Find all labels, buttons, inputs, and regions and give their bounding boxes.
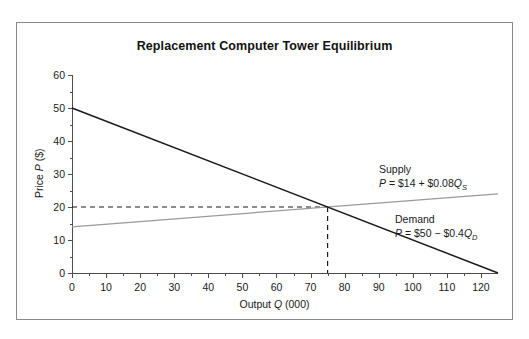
x-tick-70 <box>311 274 312 278</box>
x-axis-title-post: (000) <box>282 298 309 310</box>
x-tick-minor <box>157 274 158 276</box>
x-tick-60 <box>276 274 277 278</box>
supply-eq-body: = $14 + $0.08 <box>386 177 454 189</box>
x-tick-minor <box>191 274 192 276</box>
x-axis-line <box>72 273 498 274</box>
demand-eq-subscript: D <box>472 233 477 242</box>
x-tick-minor <box>328 274 329 276</box>
chart-figure-border: Replacement Computer Tower Equilibrium P… <box>16 22 513 320</box>
x-tick-label-40: 40 <box>202 281 214 293</box>
y-tick-label-0: 0 <box>59 267 65 279</box>
demand-annotation-equation: P = $50 − $0.4QD <box>395 227 478 245</box>
x-tick-label-70: 70 <box>305 281 317 293</box>
y-tick-label-10: 10 <box>53 234 65 246</box>
x-tick-minor <box>294 274 295 276</box>
x-tick-label-50: 50 <box>237 281 249 293</box>
demand-annotation: Demand P = $50 − $0.4QD <box>395 213 478 244</box>
x-tick-minor <box>225 274 226 276</box>
x-tick-20 <box>140 274 141 278</box>
x-tick-90 <box>379 274 380 278</box>
x-tick-minor <box>430 274 431 276</box>
supply-eq-quantity-var: Q <box>454 177 462 189</box>
supply-annotation: Supply P = $14 + $0.08QS <box>379 163 467 194</box>
x-tick-0 <box>72 274 73 278</box>
x-axis-title-pre: Output <box>239 298 273 310</box>
demand-annotation-label: Demand <box>395 213 435 225</box>
x-tick-40 <box>208 274 209 278</box>
y-axis-title: Price P ($) <box>33 148 45 198</box>
y-tick-label-50: 50 <box>53 102 65 114</box>
x-tick-label-60: 60 <box>271 281 283 293</box>
x-tick-label-30: 30 <box>168 281 180 293</box>
demand-eq-quantity-var: Q <box>464 227 472 239</box>
x-tick-50 <box>242 274 243 278</box>
x-tick-minor <box>396 274 397 276</box>
y-axis-title-pre: Price <box>33 171 45 198</box>
supply-annotation-label: Supply <box>379 163 411 175</box>
y-tick-label-20: 20 <box>53 201 65 213</box>
x-tick-label-90: 90 <box>373 281 385 293</box>
x-tick-minor <box>123 274 124 276</box>
x-tick-label-120: 120 <box>472 281 490 293</box>
x-tick-label-100: 100 <box>404 281 422 293</box>
x-tick-label-110: 110 <box>439 281 456 293</box>
supply-eq-price-var: P <box>379 177 386 189</box>
x-tick-100 <box>413 274 414 278</box>
y-tick-label-30: 30 <box>53 168 65 180</box>
x-tick-10 <box>106 274 107 278</box>
chart-title: Replacement Computer Tower Equilibrium <box>17 39 512 53</box>
x-tick-label-80: 80 <box>339 281 351 293</box>
supply-eq-subscript: S <box>462 183 467 192</box>
x-tick-30 <box>174 274 175 278</box>
x-tick-80 <box>345 274 346 278</box>
y-axis-title-variable: P <box>33 164 45 171</box>
supply-annotation-equation: P = $14 + $0.08QS <box>379 177 467 195</box>
demand-eq-body: = $50 − $0.4 <box>402 227 464 239</box>
y-axis-title-post: ($) <box>33 148 45 164</box>
x-tick-120 <box>481 274 482 278</box>
x-tick-110 <box>447 274 448 278</box>
x-tick-label-0: 0 <box>69 281 75 293</box>
y-tick-label-60: 60 <box>53 69 65 81</box>
x-tick-label-20: 20 <box>134 281 146 293</box>
x-tick-minor <box>89 274 90 276</box>
x-tick-minor <box>362 274 363 276</box>
demand-eq-price-var: P <box>395 227 402 239</box>
y-tick-label-40: 40 <box>53 135 65 147</box>
x-tick-label-10: 10 <box>100 281 112 293</box>
x-tick-minor <box>259 274 260 276</box>
x-axis-title: Output Q (000) <box>17 298 512 310</box>
x-axis-title-variable: Q <box>274 298 282 310</box>
x-tick-minor <box>464 274 465 276</box>
